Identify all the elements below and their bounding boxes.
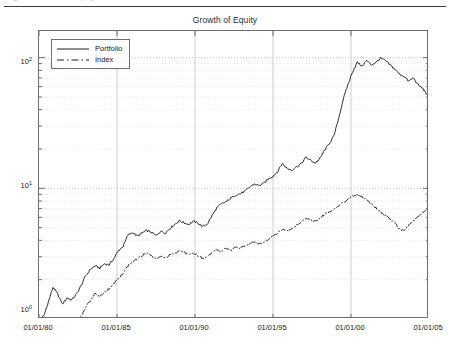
series-layer xyxy=(39,57,427,317)
x-tick-label-3: 01/01/95 xyxy=(243,323,301,332)
legend-item-portfolio[interactable]: Portfolio xyxy=(56,43,123,54)
document-header-text: Figure 12 - Growth of Equity xyxy=(8,0,94,1)
y-tick-exponent: 0 xyxy=(29,304,32,310)
legend-swatch-solid-line xyxy=(56,44,90,54)
screenshot-root: Figure 12 - Growth of Equity Growth of E… xyxy=(0,0,450,354)
legend-swatch-dashdot-line xyxy=(56,55,90,65)
chart-legend[interactable]: Portfolio Index xyxy=(51,39,130,69)
plot-area[interactable]: Portfolio Index xyxy=(38,30,428,318)
series-line-portfolio xyxy=(39,57,427,317)
plot-inner xyxy=(39,31,427,317)
y-tick-label-10: 101 xyxy=(4,182,32,190)
header-divider xyxy=(4,6,446,7)
chart-title: Growth of Equity xyxy=(0,15,450,25)
legend-label-index: Index xyxy=(95,55,113,65)
x-tick-label-0: 01/01/80 xyxy=(9,323,67,332)
y-tick-exponent: 2 xyxy=(29,56,32,62)
y-tick-label-1: 100 xyxy=(4,306,32,314)
x-tick-label-2: 01/01/90 xyxy=(165,323,223,332)
x-tick-label-5: 01/01/05 xyxy=(399,323,450,332)
tick-layer xyxy=(39,31,427,317)
chart-figure: Growth of Equity 102 101 100 01/01/80 01… xyxy=(0,8,450,354)
y-tick-label-100: 102 xyxy=(4,58,32,66)
x-tick-label-1: 01/01/85 xyxy=(87,323,145,332)
grid-layer xyxy=(39,31,427,317)
legend-item-index[interactable]: Index xyxy=(56,54,123,65)
series-line-index xyxy=(39,194,427,317)
legend-label-portfolio: Portfolio xyxy=(95,44,123,54)
chart-svg xyxy=(39,31,427,317)
y-tick-exponent: 1 xyxy=(29,180,32,186)
x-tick-label-4: 01/01/00 xyxy=(321,323,379,332)
